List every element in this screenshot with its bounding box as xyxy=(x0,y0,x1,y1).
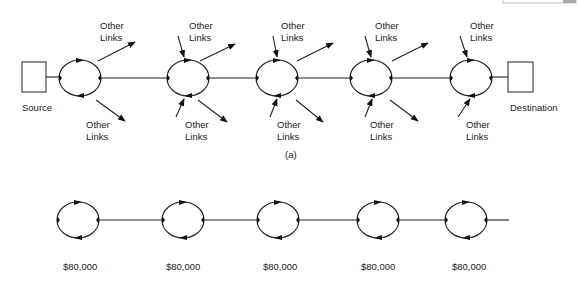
ring-node-b2 xyxy=(162,200,204,240)
svg-text:Links: Links xyxy=(375,32,397,43)
other-links-a3: Other Links Other Links xyxy=(270,20,333,142)
svg-text:Links: Links xyxy=(100,32,122,43)
cost-label-b2: $80,000 xyxy=(166,261,200,272)
ring-node-a4 xyxy=(350,58,392,98)
ring-node-b4 xyxy=(357,200,399,240)
other-links-a5: Other Links Other Links xyxy=(458,20,494,142)
part-a: Source Destination xyxy=(22,20,558,160)
ring-node-a5 xyxy=(450,58,492,98)
svg-text:Other: Other xyxy=(100,20,124,31)
svg-text:Other: Other xyxy=(375,20,399,31)
ring-node-b5 xyxy=(445,200,487,240)
ring-node-a3 xyxy=(256,58,298,98)
svg-text:Other: Other xyxy=(470,20,494,31)
svg-text:Links: Links xyxy=(277,131,299,142)
svg-text:Links: Links xyxy=(370,131,392,142)
destination-label: Destination xyxy=(510,102,558,113)
svg-text:Other: Other xyxy=(466,119,490,130)
other-links-a2: Other Links Other Links xyxy=(176,20,235,142)
svg-text:Links: Links xyxy=(470,32,492,43)
svg-text:Other: Other xyxy=(277,119,301,130)
destination-node xyxy=(508,62,533,92)
svg-text:Links: Links xyxy=(281,32,303,43)
cost-label-b1: $80,000 xyxy=(63,261,97,272)
svg-text:Other: Other xyxy=(189,20,213,31)
svg-text:Links: Links xyxy=(86,131,108,142)
cost-label-b4: $80,000 xyxy=(361,261,395,272)
ring-node-a2 xyxy=(167,58,209,98)
svg-text:Other: Other xyxy=(86,119,110,130)
corner-box xyxy=(503,0,576,3)
svg-text:Other: Other xyxy=(281,20,305,31)
other-links-a1: Other Links Other Links xyxy=(86,20,135,142)
svg-text:Other: Other xyxy=(185,119,209,130)
cost-label-b5: $80,000 xyxy=(452,261,486,272)
cost-label-b3: $80,000 xyxy=(263,261,297,272)
svg-text:Links: Links xyxy=(189,32,211,43)
other-links-a4: Other Links Other Links xyxy=(365,20,428,142)
source-label: Source xyxy=(22,102,52,113)
part-b: $80,000 $80,000 $80,000 $80,000 $80,000 xyxy=(57,200,509,272)
network-diagram: Source Destination xyxy=(0,0,579,297)
ring-node-b3 xyxy=(257,200,299,240)
svg-text:Links: Links xyxy=(466,131,488,142)
svg-text:Other: Other xyxy=(370,119,394,130)
source-node xyxy=(22,62,46,92)
ring-node-b1 xyxy=(57,200,99,240)
ring-node-a1 xyxy=(59,58,101,98)
svg-text:Links: Links xyxy=(185,131,207,142)
caption-a: (a) xyxy=(285,149,297,160)
